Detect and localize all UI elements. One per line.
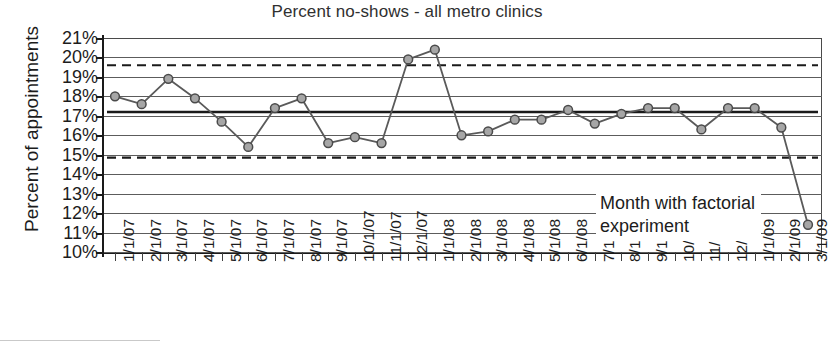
data-point-marker [804,220,813,229]
x-axis-tick [382,252,383,261]
x-axis-tick-label: 3/1/09 [814,219,830,262]
y-axis-tick [96,116,104,118]
x-axis-tick [115,252,116,261]
x-axis-tick [328,252,329,261]
y-axis-tick [96,233,104,235]
x-axis-tick [541,252,542,261]
data-point-marker [697,125,706,134]
x-axis-tick-label: 3/1/07 [174,219,190,262]
x-axis-tick-label: 12/1/07 [414,210,430,262]
page-rule [0,340,160,341]
data-point-marker [777,123,786,132]
y-axis-tick-label: 17% [62,107,98,125]
x-axis-tick [648,252,649,261]
data-point-marker [750,104,759,113]
y-axis-tick [96,213,104,215]
data-point-marker [404,55,413,64]
x-axis-tick-label: 1/1/08 [441,219,457,262]
x-axis-tick [515,252,516,261]
x-axis-tick-label: 8/1/07 [308,219,324,262]
data-point-marker [297,94,306,103]
x-axis-tick [195,252,196,261]
data-point-marker [644,104,653,113]
x-axis-tick-label: 1/1/09 [761,219,777,262]
x-axis-tick [462,252,463,261]
x-axis-tick [675,252,676,261]
data-point-marker [191,94,200,103]
x-axis-tick [808,252,809,261]
data-point-marker [430,45,439,54]
y-axis-tick [96,96,104,98]
y-axis-tick-label: 10% [62,243,98,261]
data-point-marker [244,143,253,152]
y-axis-tick [96,194,104,196]
data-point-marker [537,115,546,124]
y-axis-tick-label: 16% [62,126,98,144]
annotation-line-2: experiment [600,215,755,238]
x-axis-tick-label: 10/1/07 [361,210,377,262]
y-axis-tick-labels: 21%20%19%18%17%16%15%14%13%12%11%10% [36,30,98,252]
x-axis-tick [248,252,249,261]
annotation-line-1: Month with factorial [600,192,755,215]
data-point-marker [350,133,359,142]
data-point-marker [484,127,493,136]
x-axis-tick-label: 7/1/07 [281,219,297,262]
x-axis-tick [755,252,756,261]
x-axis-tick [595,252,596,261]
y-axis-tick [96,155,104,157]
x-axis-tick [302,252,303,261]
data-point-marker [164,74,173,83]
factorial-experiment-annotation: Month with factorial experiment [596,190,761,241]
data-point-marker [111,92,120,101]
x-axis-tick-label: 11/1/07 [388,211,404,262]
x-axis-tick-label: 2/1/09 [787,219,803,262]
x-axis-tick-label: 4/1/08 [521,219,537,262]
x-axis-tick [781,252,782,261]
y-axis-tick [96,38,104,40]
chart-title: Percent no-shows - all metro clinics [0,2,834,22]
y-axis-tick [96,77,104,79]
y-axis-tick-label: 20% [62,48,98,66]
x-axis-tick-label: 6/1/07 [254,219,270,262]
x-axis-tick-label: 2/1/08 [468,219,484,262]
y-axis-tick-label: 21% [62,29,98,47]
data-point-marker [617,109,626,118]
x-axis-tick [488,252,489,261]
data-point-marker [137,100,146,109]
y-axis-tick-label: 12% [62,204,98,222]
data-point-marker [324,139,333,148]
y-axis-tick-label: 11% [63,224,98,242]
y-axis-tick [96,174,104,176]
y-axis-tick-label: 18% [62,87,98,105]
y-axis-tick [96,57,104,59]
x-axis-tick-label: 5/1/07 [228,219,244,262]
x-axis-tick [222,252,223,261]
x-axis-tick-label: 4/1/07 [201,219,217,262]
x-axis-tick [408,252,409,261]
x-axis-tick [142,252,143,261]
x-axis-tick-labels: 1/1/072/1/073/1/074/1/075/1/076/1/077/1/… [103,262,822,342]
x-axis-tick-label: 1/1/07 [121,219,137,262]
x-axis-tick-label: 2/1/07 [148,219,164,262]
data-point-marker [217,117,226,126]
data-point-marker [724,104,733,113]
x-axis-tick [568,252,569,261]
data-point-marker [670,104,679,113]
x-axis-tick-label: 9/1/07 [334,219,350,262]
x-axis-tick [275,252,276,261]
x-axis-tick-label: 3/1/08 [494,219,510,262]
y-axis-tick-label: 14% [62,165,98,183]
y-axis-tick-label: 15% [62,146,98,164]
x-axis-tick [435,252,436,261]
x-axis-tick [168,252,169,261]
x-axis-tick [701,252,702,261]
y-axis-tick [96,252,104,254]
x-axis-tick [621,252,622,261]
chart-figure: Percent no-shows - all metro clinics Per… [0,0,834,351]
y-axis-tick-label: 13% [62,185,98,203]
x-axis-tick-label: 6/1/08 [574,219,590,262]
data-point-marker [457,131,466,140]
x-axis-tick-label: 5/1/08 [547,219,563,262]
data-point-marker [590,119,599,128]
data-point-marker [271,104,280,113]
